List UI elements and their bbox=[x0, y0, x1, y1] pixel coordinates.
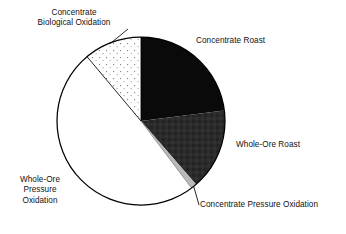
slice-label-concentrate-pressure-oxidation: Concentrate Pressure Oxidation bbox=[200, 200, 318, 210]
slice-label-line: Concentrate Roast bbox=[196, 36, 265, 46]
slice-label-whole-ore-pressure-oxidation: Whole-Ore Pressure Oxidation bbox=[6, 175, 74, 206]
pie-slice-concentrate-roast bbox=[141, 37, 224, 121]
callout-line-concentrate-pressure-oxidation bbox=[194, 186, 199, 205]
slice-label-line: Concentrate bbox=[16, 8, 132, 18]
slice-label-line: Concentrate Pressure Oxidation bbox=[200, 200, 318, 210]
slice-label-concentrate-roast: Concentrate Roast bbox=[196, 36, 265, 46]
slice-label-line: Oxidation bbox=[6, 196, 74, 206]
slice-label-whole-ore-roast: Whole-Ore Roast bbox=[236, 140, 300, 150]
pie-chart-figure: Concentrate Biological Oxidation Concent… bbox=[0, 0, 346, 234]
slice-label-line: Pressure bbox=[6, 185, 74, 195]
slice-label-line: Whole-Ore Roast bbox=[236, 140, 300, 150]
slice-label-line: Biological Oxidation bbox=[16, 18, 132, 28]
slice-label-concentrate-biological-oxidation: Concentrate Biological Oxidation bbox=[16, 8, 132, 29]
slice-label-line: Whole-Ore bbox=[6, 175, 74, 185]
